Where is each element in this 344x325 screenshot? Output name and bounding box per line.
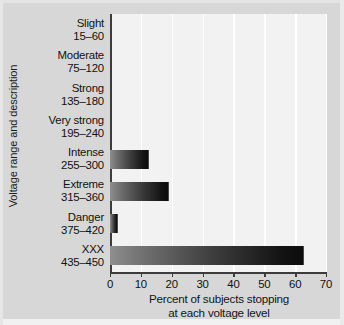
category-voltage-range: 15–60 [26,30,104,43]
bar [110,150,149,169]
y-axis-title: Voltage range and description [0,0,26,272]
category-description: Extreme [26,178,104,191]
x-axis-tick-mark [326,273,327,277]
gridline [295,14,296,272]
category-description: Moderate [26,49,104,62]
y-axis-line [110,14,112,273]
plot-area [110,14,326,272]
x-axis-tick-label: 20 [157,278,187,290]
y-axis-tick-label: Slight15–60 [26,17,104,43]
category-voltage-range: 195–240 [26,127,104,140]
gridline [233,14,234,272]
gridline [326,14,327,272]
x-axis-title-line-1: Percent of subjects stopping [149,292,289,305]
bar [110,246,304,265]
x-axis-tick-label: 60 [280,278,310,290]
x-axis-tick-label: 0 [95,278,125,290]
x-axis-tick-label: 10 [126,278,156,290]
x-axis-tick-label: 50 [249,278,279,290]
x-axis-title-line-2: at each voltage level [108,306,330,320]
y-axis-title-text: Voltage range and description [7,65,19,208]
category-voltage-range: 75–120 [26,62,104,75]
figure-border-top [0,0,344,3]
x-axis-tick-label: 70 [311,278,341,290]
bar-chart-figure: Voltage range and description Slight15–6… [0,0,344,325]
y-axis-tick-label: Intense255–300 [26,146,104,172]
category-voltage-range: 135–180 [26,95,104,108]
x-axis-tick-label: 30 [188,278,218,290]
x-axis-tick-mark [295,273,296,277]
figure-border-right [340,0,344,325]
x-axis-tick-mark [203,273,204,277]
y-axis-tick-labels: Slight15–60Moderate75–120Strong135–180Ve… [26,12,108,272]
y-axis-tick-label: Moderate75–120 [26,49,104,75]
y-axis-tick-label: Strong135–180 [26,82,104,108]
x-axis-tick-label: 40 [218,278,248,290]
y-axis-tick-label: Very strong195–240 [26,114,104,140]
gridline [141,14,142,272]
x-axis-tick-mark [264,273,265,277]
bar [110,182,169,201]
category-description: Strong [26,82,104,95]
category-voltage-range: 375–420 [26,224,104,237]
category-description: Intense [26,146,104,159]
x-axis-tick-mark [110,273,111,277]
category-voltage-range: 435–450 [26,256,104,269]
category-description: Slight [26,17,104,30]
gridline [203,14,204,272]
y-axis-tick-label: Danger375–420 [26,211,104,237]
category-description: Danger [26,211,104,224]
x-axis-title: Percent of subjects stopping at each vol… [108,292,330,320]
bar [110,214,118,233]
y-axis-tick-label: XXX435–450 [26,243,104,269]
category-voltage-range: 255–300 [26,159,104,172]
category-description: Very strong [26,114,104,127]
y-axis-tick-label: Extreme315–360 [26,178,104,204]
category-description: XXX [26,243,104,256]
x-axis-tick-mark [141,273,142,277]
x-axis-tick-mark [233,273,234,277]
category-voltage-range: 315–360 [26,191,104,204]
gridline [172,14,173,272]
gridline [264,14,265,272]
x-axis-tick-mark [172,273,173,277]
